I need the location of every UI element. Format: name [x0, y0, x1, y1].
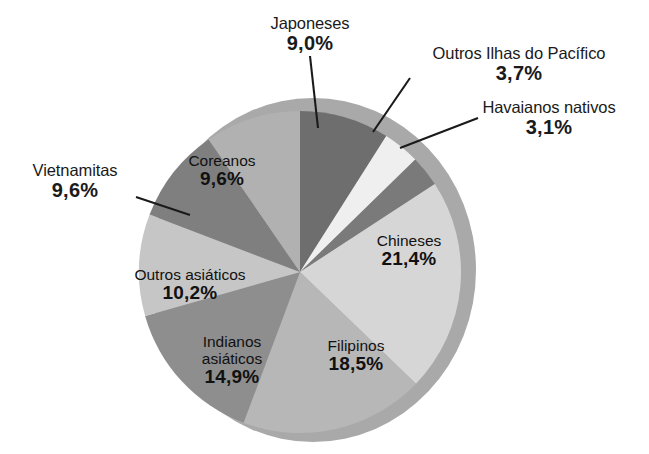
callout-vietnamitas-value: 9,6% — [14, 179, 136, 201]
pie-chart-figure: Japoneses 9,0% Outros Ilhas do Pacífico … — [0, 0, 649, 454]
callout-outros-ilhas-do-pacifico-value: 3,7% — [398, 62, 640, 84]
callout-japoneses-category: Japoneses — [234, 14, 386, 32]
inlabel-outros-asiaticos: Outros asiáticos 10,2% — [110, 266, 270, 304]
inlabel-filipinos: Filipinos 18,5% — [300, 337, 412, 375]
inlabel-outros-asiaticos-category: Outros asiáticos — [110, 266, 270, 283]
inlabel-chineses-value: 21,4% — [348, 249, 470, 270]
inlabel-chineses-category: Chineses — [348, 232, 470, 249]
callout-japoneses-value: 9,0% — [234, 32, 386, 54]
inlabel-outros-asiaticos-value: 10,2% — [110, 283, 270, 304]
callout-outros-ilhas-do-pacifico: Outros Ilhas do Pacífico 3,7% — [398, 44, 640, 85]
inlabel-filipinos-value: 18,5% — [300, 354, 412, 375]
inlabel-coreanos: Coreanos 9,6% — [163, 152, 281, 190]
callout-japoneses: Japoneses 9,0% — [234, 14, 386, 55]
inlabel-indianos-asiaticos-category-line1: Indianos — [178, 333, 286, 350]
callout-havaianos-nativos: Havaianos nativos 3,1% — [458, 98, 640, 139]
inlabel-coreanos-category: Coreanos — [163, 152, 281, 169]
inlabel-filipinos-category: Filipinos — [300, 337, 412, 354]
callout-vietnamitas-category: Vietnamitas — [14, 161, 136, 179]
inlabel-chineses: Chineses 21,4% — [348, 232, 470, 270]
callout-outros-ilhas-do-pacifico-category: Outros Ilhas do Pacífico — [398, 44, 640, 62]
inlabel-indianos-asiaticos-value: 14,9% — [178, 367, 286, 388]
inlabel-coreanos-value: 9,6% — [163, 169, 281, 190]
callout-havaianos-nativos-value: 3,1% — [458, 116, 640, 138]
inlabel-indianos-asiaticos-category-line2: asiáticos — [178, 350, 286, 367]
callout-havaianos-nativos-category: Havaianos nativos — [458, 98, 640, 116]
inlabel-indianos-asiaticos: Indianos asiáticos 14,9% — [178, 333, 286, 388]
callout-vietnamitas: Vietnamitas 9,6% — [14, 161, 136, 202]
